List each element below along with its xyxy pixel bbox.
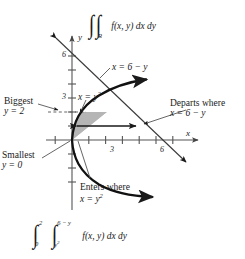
line-equation-label: x = 6 − y	[112, 62, 148, 73]
annotation-smallest-y-line1: Smallest	[2, 150, 35, 160]
inner-integral: ∫ 6 − y y2	[51, 222, 58, 248]
leader-smallest-y	[42, 141, 70, 158]
annotation-smallest-y: Smallest y = 0	[2, 150, 35, 170]
parabola-equation-label: x = y2	[78, 90, 101, 103]
annotation-departs-where-line1: Departs where	[170, 98, 225, 108]
parabola-exponent: 2	[98, 90, 101, 97]
outer-lower-limit: 0	[35, 240, 38, 247]
annotation-smallest-y-line2: y = 0	[2, 160, 35, 170]
x-axis-label: x	[186, 128, 190, 138]
y-tick-3: 3	[62, 92, 66, 101]
parabola-equation-text: x = y	[78, 92, 98, 102]
annotation-departs-where: Departs where x = 6 − y	[170, 98, 225, 118]
annotation-enters-where-line2: x = y2	[80, 192, 130, 204]
annotation-biggest-y-line1: Biggest	[4, 96, 33, 106]
double-integral-figure: ∫∫ f(x, y) dx dy R	[0, 0, 245, 259]
outer-upper-limit: 2	[39, 219, 42, 226]
annotation-biggest-y-line2: y = 2	[4, 106, 33, 116]
inner-lower-exp: 2	[57, 240, 60, 245]
inner-lower-limit: y2	[54, 240, 59, 248]
inner-upper-limit: 6 − y	[57, 219, 71, 226]
annotation-enters-where-eq: x = y	[80, 194, 100, 204]
leader-line-label	[100, 68, 110, 78]
line-x-equals-6-minus-y	[56, 38, 186, 162]
x-tick-6: 6	[160, 145, 164, 154]
annotation-biggest-y: Biggest y = 2	[4, 96, 33, 116]
annotation-departs-where-line2: x = 6 − y	[170, 108, 225, 118]
y-tick-6: 6	[62, 50, 66, 59]
leader-biggest-y	[38, 104, 58, 110]
annotation-enters-where-line1: Enters where	[80, 182, 130, 192]
y-axis-label: y	[78, 32, 82, 42]
x-tick-3: 3	[110, 145, 114, 154]
bottom-integrand-label: f(x, y) dx dy	[82, 231, 127, 241]
annotation-enters-where-exp: 2	[100, 192, 103, 199]
outer-integral: ∫ 2 0	[32, 222, 39, 248]
bottom-integral-expression: ∫ 2 0 ∫ 6 − y y2 f(x, y) dx dy	[32, 222, 127, 248]
annotation-enters-where: Enters where x = y2	[80, 182, 130, 204]
